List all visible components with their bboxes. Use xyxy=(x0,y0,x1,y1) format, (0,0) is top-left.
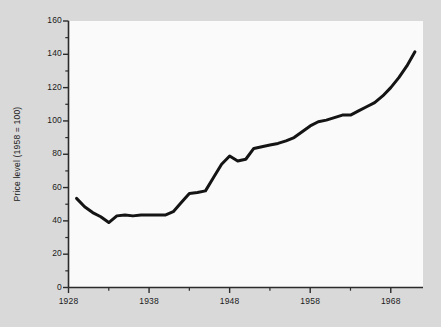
plot-area-background xyxy=(69,21,424,288)
x-axis-tick-label: 1938 xyxy=(124,296,174,306)
x-axis-tick-label: 1928 xyxy=(44,296,94,306)
chart-canvas xyxy=(0,0,441,327)
y-axis-tick-label: 160 xyxy=(20,15,62,25)
y-axis-tick-label: 40 xyxy=(20,215,62,225)
y-axis-tick-label: 60 xyxy=(20,182,62,192)
y-axis-title: Price level (1958 = 100) xyxy=(12,107,22,202)
price-level-chart: 0204060801001201401601928193819481958196… xyxy=(0,0,441,327)
y-axis-tick-label: 0 xyxy=(20,282,62,292)
x-axis-tick-label: 1948 xyxy=(205,296,255,306)
y-axis-tick-label: 100 xyxy=(20,115,62,125)
y-axis-tick-label: 20 xyxy=(20,248,62,258)
y-axis-tick-label: 80 xyxy=(20,148,62,158)
y-axis-tick-label: 140 xyxy=(20,48,62,58)
x-axis-tick-label: 1968 xyxy=(366,296,416,306)
x-axis-tick-label: 1958 xyxy=(285,296,335,306)
y-axis-tick-label: 120 xyxy=(20,82,62,92)
